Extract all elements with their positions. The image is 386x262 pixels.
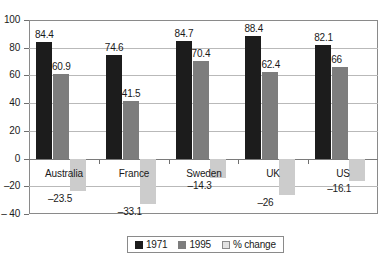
category-label-us: US xyxy=(308,168,378,179)
value-label-australia-1995: 60.9 xyxy=(52,61,71,72)
bar-sweden-1995 xyxy=(193,61,209,159)
category-label-australia: Australia xyxy=(29,168,99,179)
chart-legend: 19711995% change xyxy=(127,236,284,253)
y-axis-tick-20 xyxy=(24,131,29,132)
category-label-france: France xyxy=(99,168,169,179)
y-axis-label-60: 60 xyxy=(0,70,20,80)
category-label-uk: UK xyxy=(238,168,308,179)
bar-sweden-1971 xyxy=(176,41,192,159)
bar-chart: 100806040200–20– 40 84.460.9–23.574.641.… xyxy=(0,0,386,262)
bar-us-1995 xyxy=(332,67,348,159)
bar-france-1995 xyxy=(123,101,139,159)
bar-uk-1971 xyxy=(245,36,261,159)
legend-label-1971: 1971 xyxy=(146,240,167,250)
bar-france--change xyxy=(140,159,156,204)
value-label-sweden--change: –14.3 xyxy=(188,180,212,191)
legend-label-1995: 1995 xyxy=(189,240,210,250)
legend-swatch-1971-icon xyxy=(135,241,143,249)
bar-australia-1995 xyxy=(53,74,69,159)
legend-swatch-pct-change-icon xyxy=(222,241,230,249)
value-label-us-1971: 82.1 xyxy=(314,32,333,43)
bar-us-1971 xyxy=(315,45,331,159)
value-label-uk-1995: 62.4 xyxy=(261,59,280,70)
y-axis-label-0: 0 xyxy=(0,154,20,164)
y-axis-label-100: 100 xyxy=(0,15,20,25)
value-label-uk-1971: 88.4 xyxy=(244,23,263,34)
value-label-uk--change: –26 xyxy=(257,197,273,208)
y-axis-label-80: 80 xyxy=(0,43,20,53)
y-axis-label--40: – 40 xyxy=(0,209,20,219)
legend-label--change: % change xyxy=(233,240,276,250)
y-axis-tick-60 xyxy=(24,75,29,76)
y-axis-tick-100 xyxy=(24,20,29,21)
value-label-france-1995: 41.5 xyxy=(122,88,141,99)
legend-entry--change[interactable]: % change xyxy=(222,240,276,250)
value-label-us-1995: 66 xyxy=(331,54,342,65)
bar-uk-1995 xyxy=(262,72,278,159)
legend-entry-1971[interactable]: 1971 xyxy=(135,240,167,250)
x-axis-tick-4 xyxy=(308,160,309,164)
x-axis-tick-2 xyxy=(169,160,170,164)
y-axis-tick--40 xyxy=(24,214,29,215)
y-axis-label--20: –20 xyxy=(0,181,20,191)
y-axis-tick-0 xyxy=(24,159,29,160)
value-label-sweden-1995: 70.4 xyxy=(192,48,211,59)
y-axis-tick-40 xyxy=(24,103,29,104)
legend-swatch-1995-icon xyxy=(178,241,186,249)
bar-australia-1971 xyxy=(36,42,52,159)
bar-france-1971 xyxy=(106,55,122,159)
x-axis-tick-1 xyxy=(99,160,100,164)
value-label-australia-1971: 84.4 xyxy=(35,29,54,40)
category-label-sweden: Sweden xyxy=(169,168,239,179)
value-label-us--change: –16.1 xyxy=(327,183,351,194)
value-label-sweden-1971: 84.7 xyxy=(175,28,194,39)
value-label-france--change: –33.1 xyxy=(118,206,142,217)
y-axis-label-40: 40 xyxy=(0,98,20,108)
y-axis-label-20: 20 xyxy=(0,126,20,136)
x-axis-tick-3 xyxy=(238,160,239,164)
value-label-france-1971: 74.6 xyxy=(105,42,124,53)
y-axis-tick-80 xyxy=(24,48,29,49)
value-label-australia--change: –23.5 xyxy=(48,193,72,204)
legend-entry-1995[interactable]: 1995 xyxy=(178,240,210,250)
y-axis-tick--20 xyxy=(24,186,29,187)
